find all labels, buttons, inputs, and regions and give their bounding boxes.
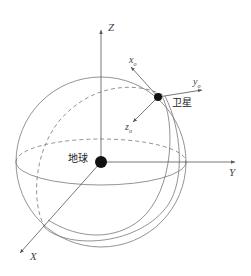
- satellite-label: 卫星: [172, 98, 192, 108]
- sat-z-axis: [133, 97, 158, 122]
- x-axis-label: X: [30, 251, 37, 262]
- sat-x-label: xo: [129, 55, 136, 67]
- earth-label: 地球: [68, 154, 88, 164]
- y-axis-label: Y: [229, 167, 235, 178]
- inertial-axes: [20, 30, 235, 253]
- sat-z-label: zo: [125, 122, 132, 134]
- diagram-canvas: [0, 0, 251, 276]
- sat-y-label: yo: [193, 77, 200, 89]
- z-axis-label: Z: [108, 22, 114, 33]
- earth-dot: [95, 156, 107, 168]
- sat-x-axis: [131, 67, 158, 97]
- sat-y-axis: [158, 90, 202, 97]
- satellite-axes: [131, 67, 202, 122]
- orbit-ellipse: [37, 87, 180, 241]
- satellite-dot: [154, 93, 162, 101]
